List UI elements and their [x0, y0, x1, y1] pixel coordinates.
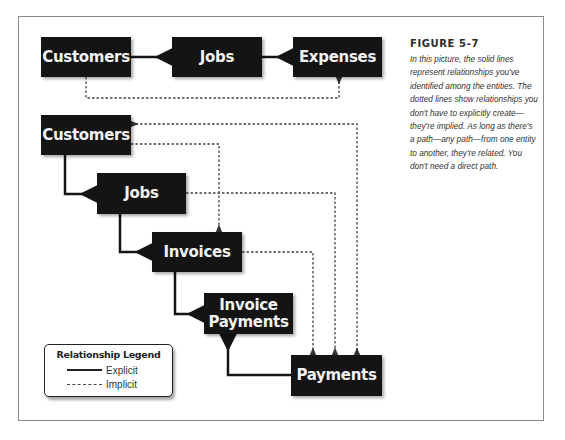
entity-invoices: Invoices [152, 232, 242, 272]
legend-label-explicit: Explicit [106, 365, 138, 376]
solid-line-swatch [67, 369, 102, 371]
legend-title: Relationship Legend [45, 349, 172, 360]
relationship-legend: Relationship Legend Explicit Implicit [44, 344, 173, 397]
entity-expenses-top: Expenses [293, 37, 382, 77]
entity-customers-top: Customers [41, 37, 131, 77]
legend-item-explicit: Explicit [67, 364, 138, 376]
legend-label-implicit: Implicit [106, 379, 137, 390]
entity-payments: Payments [291, 355, 382, 396]
figure-caption: FIGURE 5-7 In this picture, the solid li… [410, 38, 540, 173]
figure-label: FIGURE 5-7 [410, 38, 540, 49]
figure-caption-text: In this picture, the solid lines represe… [410, 52, 539, 173]
entity-invoice-payments: Invoice Payments [204, 293, 293, 334]
entity-customers: Customers [41, 115, 131, 155]
entity-jobs-top: Jobs [172, 37, 262, 77]
top-implicit-lines [86, 77, 339, 98]
legend-item-implicit: Implicit [67, 378, 137, 390]
dotted-line-swatch [67, 384, 102, 385]
entity-jobs: Jobs [97, 173, 186, 214]
